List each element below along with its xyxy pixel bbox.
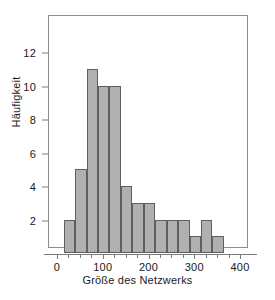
histogram-bar <box>64 220 75 254</box>
x-minor-tick-mark <box>171 254 172 258</box>
y-tick-label: 10 <box>23 81 36 93</box>
histogram-bar <box>132 203 143 253</box>
x-minor-tick-mark <box>114 254 115 258</box>
x-minor-tick-mark <box>229 254 230 258</box>
x-minor-tick-mark <box>206 254 207 258</box>
x-tick-mark <box>103 254 104 259</box>
x-axis: 0100200300400 <box>0 254 275 274</box>
x-minor-tick-mark <box>80 254 81 258</box>
x-minor-tick-mark <box>137 254 138 258</box>
x-minor-tick-mark <box>91 254 92 258</box>
x-tick-mark <box>240 254 241 259</box>
x-minor-tick-mark <box>217 254 218 258</box>
x-minor-tick-mark <box>126 254 127 258</box>
y-tick-label: 12 <box>23 47 36 59</box>
x-minor-tick-mark <box>160 254 161 258</box>
plot-area <box>48 15 248 248</box>
x-minor-tick-mark <box>68 254 69 258</box>
histogram-bar <box>201 220 212 254</box>
histogram-bar <box>98 86 109 254</box>
x-tick-label: 300 <box>185 261 204 273</box>
y-tick-label: 8 <box>30 114 36 126</box>
histogram-bar <box>178 220 189 254</box>
histogram-bar <box>190 236 201 253</box>
y-tick-label: 2 <box>30 215 36 227</box>
x-tick-mark <box>57 254 58 259</box>
histogram-bar <box>121 186 132 253</box>
y-axis-title: Häufigkeit <box>10 52 22 152</box>
x-tick-label: 200 <box>139 261 158 273</box>
x-tick-label: 0 <box>54 261 60 273</box>
y-axis: 24681012 <box>0 0 48 248</box>
bars-layer <box>49 16 247 247</box>
y-tick-label: 6 <box>30 148 36 160</box>
x-tick-label: 400 <box>231 261 250 273</box>
y-tick-label: 4 <box>30 181 36 193</box>
x-minor-tick-mark <box>183 254 184 258</box>
x-tick-mark <box>149 254 150 259</box>
histogram-bar <box>87 69 98 253</box>
histogram-bar <box>155 220 166 254</box>
histogram-bar <box>75 169 86 253</box>
histogram-bar <box>144 203 155 253</box>
x-tick-label: 100 <box>93 261 112 273</box>
x-axis-title: Größe des Netzwerks <box>0 274 275 286</box>
x-tick-mark <box>194 254 195 259</box>
histogram-bar <box>212 236 223 253</box>
histogram-bar <box>167 220 178 254</box>
histogram-figure: 24681012 Häufigkeit 0100200300400 Größe … <box>0 0 275 300</box>
histogram-bar <box>109 86 120 254</box>
